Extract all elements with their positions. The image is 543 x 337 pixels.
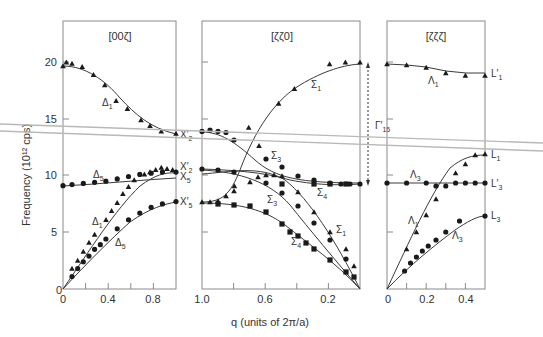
svg-text:L′3: L′3 xyxy=(491,178,502,191)
svg-text:20: 20 xyxy=(45,56,57,68)
svg-text:X′5: X′5 xyxy=(180,196,193,209)
svg-text:0.4: 0.4 xyxy=(458,293,473,305)
svg-text:0.6: 0.6 xyxy=(257,293,272,305)
svg-text:Λ1: Λ1 xyxy=(428,75,439,88)
svg-text:Δ1: Δ1 xyxy=(102,97,113,110)
y-tick-labels: 20 15 10 5 0 xyxy=(45,56,62,296)
panel-title: [ζζζ] xyxy=(426,30,447,42)
panel-title: [00ζ] xyxy=(108,30,131,42)
svg-text:Δ1: Δ1 xyxy=(92,216,103,229)
svg-text:Σ3: Σ3 xyxy=(267,194,277,207)
panel-00z: [00ζ] 0 0.4 0.8 xyxy=(60,21,193,305)
svg-text:Σ4: Σ4 xyxy=(317,187,327,200)
svg-text:L′1: L′1 xyxy=(491,68,502,81)
svg-text:0.8: 0.8 xyxy=(145,293,160,305)
svg-text:Λ3: Λ3 xyxy=(452,230,463,243)
svg-text:Λ3: Λ3 xyxy=(410,169,421,182)
x-axis-label: q (units of 2π/a) xyxy=(231,316,309,328)
svg-text:0: 0 xyxy=(385,293,391,305)
svg-text:0.2: 0.2 xyxy=(419,293,434,305)
svg-text:5: 5 xyxy=(51,226,57,238)
svg-text:0.4: 0.4 xyxy=(100,293,115,305)
svg-text:L3: L3 xyxy=(491,210,501,223)
y-axis-label: Frequency (10¹² cps) xyxy=(20,124,32,226)
svg-text:Σ3: Σ3 xyxy=(271,150,281,163)
svg-text:Δ5: Δ5 xyxy=(115,237,126,250)
svg-text:10: 10 xyxy=(45,169,57,181)
overlay-diagonal-lines xyxy=(0,124,543,151)
svg-text:Σ1: Σ1 xyxy=(336,224,346,237)
phonon-dispersion-chart: Frequency (10¹² cps) 20 15 10 5 0 [00ζ] … xyxy=(0,0,543,337)
svg-text:15: 15 xyxy=(45,113,57,125)
panel-title: [ζζ0] xyxy=(271,30,293,42)
svg-text:0.2: 0.2 xyxy=(320,293,335,305)
svg-text:Λ1: Λ1 xyxy=(408,215,419,228)
svg-text:Σ1: Σ1 xyxy=(311,79,321,92)
svg-text:Γ′15: Γ′15 xyxy=(375,120,390,133)
panel-zzz: [ζζζ] 0 0.2 0.4 xyxy=(384,21,502,305)
svg-text:L1: L1 xyxy=(491,149,501,162)
svg-text:0: 0 xyxy=(60,293,66,305)
panel-zz0: [ζζ0] 1.0 0.6 0.2 xyxy=(194,21,390,305)
svg-text:1.0: 1.0 xyxy=(194,293,209,305)
